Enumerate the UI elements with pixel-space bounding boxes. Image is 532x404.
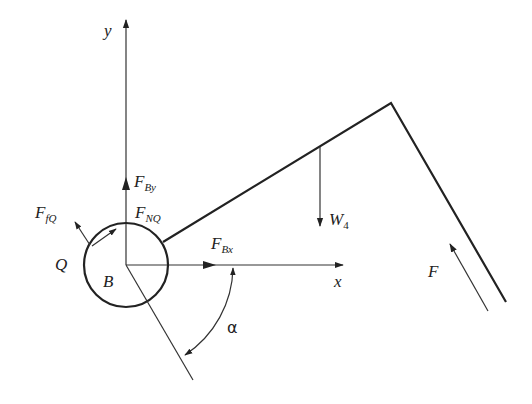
alpha-label: α <box>227 318 238 337</box>
y-axis-label: y <box>102 21 112 40</box>
f-fq-label: FfQ <box>34 203 56 224</box>
b-label: B <box>103 272 114 291</box>
free-body-diagram: y x FBy FBx FNQ FfQ Q B W4 F α <box>0 0 532 404</box>
alpha-reference-line <box>126 265 193 380</box>
alpha-arc <box>185 268 233 355</box>
f-fq-arrow <box>75 222 90 245</box>
f-by-label: FBy <box>133 172 156 193</box>
w4-label: W4 <box>329 210 349 231</box>
f-bx-arrow-icon <box>203 261 216 269</box>
f-force-arrow <box>450 244 488 311</box>
f-label: F <box>427 262 439 281</box>
x-axis-label: x <box>333 272 342 291</box>
f-nq-label: FNQ <box>134 203 161 224</box>
f-by-arrow-icon <box>122 177 130 190</box>
q-label: Q <box>55 255 67 274</box>
f-bx-label: FBx <box>210 234 233 255</box>
